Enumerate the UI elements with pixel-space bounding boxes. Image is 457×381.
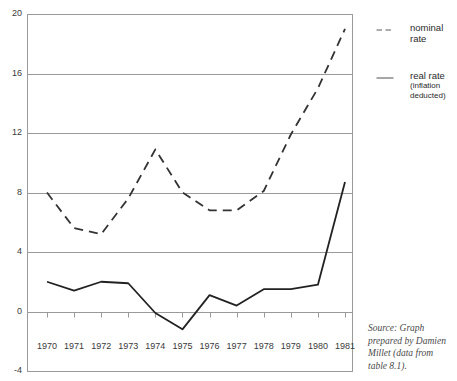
x-tick-label-1979: 1979 [278, 341, 304, 351]
x-tick-label-1973: 1973 [115, 341, 141, 351]
y-tick-label-16: 16 [2, 68, 22, 78]
legend-label-real-sub1: (inflation [410, 81, 456, 91]
source-line-2: prepared by Damien [368, 335, 454, 348]
x-tick-label-1976: 1976 [197, 341, 223, 351]
y-tick-label-8: 8 [2, 187, 22, 197]
legend-label-nominal: nominal rate [410, 22, 456, 44]
legend-label-real-sub2: deducted) [410, 91, 456, 101]
legend-dashed-line-icon [368, 29, 402, 31]
x-tick-label-1970: 1970 [34, 341, 60, 351]
y-tick-label-12: 12 [2, 127, 22, 137]
legend-item-nominal-rate: nominal rate [368, 22, 456, 48]
x-tick-label-1971: 1971 [61, 341, 87, 351]
legend-label-real: real rate (inflation deducted) [410, 70, 456, 101]
y-tick-label-0: 0 [2, 306, 22, 316]
x-tick-label-1974: 1974 [142, 341, 168, 351]
x-tick-label-1975: 1975 [169, 341, 195, 351]
source-line-3: Millet (data from [368, 347, 454, 360]
source-line-4: table 8.1). [368, 360, 454, 373]
source-line-1: Source: Graph [368, 322, 454, 335]
x-tick-label-1978: 1978 [251, 341, 277, 351]
legend-item-real-rate: real rate (inflation deducted) [368, 70, 456, 101]
y-tick-label-4: 4 [2, 246, 22, 256]
legend-solid-line-icon [368, 77, 402, 79]
chart-figure: 201612840-4 1970197119721973197419751976… [0, 0, 457, 381]
legend-label-nominal-line2: rate [410, 33, 456, 44]
chart-legend: nominal rate real rate (inflation deduct… [368, 22, 456, 123]
source-note: Source: Graph prepared by Damien Millet … [368, 322, 454, 372]
legend-label-nominal-line1: nominal [410, 22, 456, 33]
y-tick-label-20: 20 [2, 8, 22, 18]
y-tick-label--4: -4 [2, 365, 22, 375]
x-tick-label-1977: 1977 [224, 341, 250, 351]
x-tick-label-1972: 1972 [88, 341, 114, 351]
chart-canvas [27, 14, 353, 372]
legend-label-real-line1: real rate [410, 70, 456, 81]
plot-area [27, 14, 353, 372]
x-tick-label-1981: 1981 [332, 341, 358, 351]
x-tick-label-1980: 1980 [305, 341, 331, 351]
